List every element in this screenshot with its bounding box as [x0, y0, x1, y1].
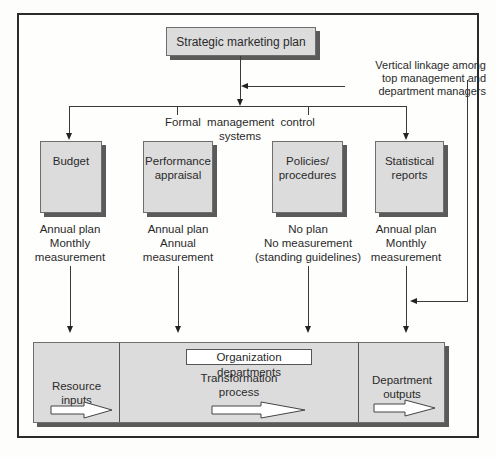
flow-arrow-icon	[50, 401, 114, 419]
policies-procedures-label: Policies/ procedures	[279, 154, 337, 212]
department-outputs-label: Department outputs	[359, 373, 445, 401]
arrow-down-icon	[175, 326, 181, 333]
flow-arrow-icon	[211, 401, 307, 419]
connector-line	[70, 266, 71, 327]
distribution-line	[69, 106, 407, 107]
transformation-process-label: Transformation process	[120, 371, 358, 399]
organization-departments-label: Organization departments	[186, 349, 312, 365]
connector-line	[406, 266, 407, 327]
control-systems-label: Formal management control systems	[150, 115, 330, 143]
performance-appraisal-box: Performance appraisal	[143, 141, 213, 213]
branch-line	[406, 106, 407, 134]
strategic-marketing-plan-box: Strategic marketing plan	[166, 27, 316, 56]
vertical-linkage-note: Vertical linkage among top management an…	[346, 59, 486, 98]
budget-box: Budget	[40, 141, 102, 213]
linkage-down-line	[467, 80, 468, 301]
arrow-down-icon	[67, 326, 73, 333]
organization-departments-box: Organization departments Resource inputs…	[33, 342, 445, 423]
policies-procedures-box: Policies/ procedures	[272, 141, 343, 213]
flow-arrow-icon	[373, 399, 437, 417]
performance-appraisal-detail: Annual plan Annual measurement	[138, 222, 218, 264]
arrow-left-icon	[241, 83, 248, 89]
statistical-reports-box: Statistical reports	[375, 141, 444, 213]
arrow-left-icon	[410, 298, 417, 304]
strategic-marketing-plan-label: Strategic marketing plan	[176, 35, 305, 49]
arrow-down-icon	[305, 326, 311, 333]
branch-line	[69, 106, 70, 134]
arrow-down-icon	[237, 99, 243, 106]
connector-line	[308, 266, 309, 327]
budget-detail: Annual plan Monthly measurement	[30, 222, 110, 264]
arrow-down-icon	[66, 133, 72, 140]
statistical-reports-label: Statistical reports	[385, 154, 434, 212]
arrow-down-icon	[403, 326, 409, 333]
arrow-down-icon	[403, 133, 409, 140]
linkage-arrow-line	[245, 86, 345, 87]
policies-procedures-detail: No plan No measurement (standing guideli…	[253, 222, 363, 264]
performance-appraisal-label: Performance appraisal	[145, 154, 211, 212]
budget-label: Budget	[53, 154, 89, 212]
linkage-return-line	[414, 301, 468, 302]
statistical-reports-detail: Annual plan Monthly measurement	[366, 222, 446, 264]
connector-line	[240, 56, 241, 100]
connector-line	[178, 266, 179, 327]
